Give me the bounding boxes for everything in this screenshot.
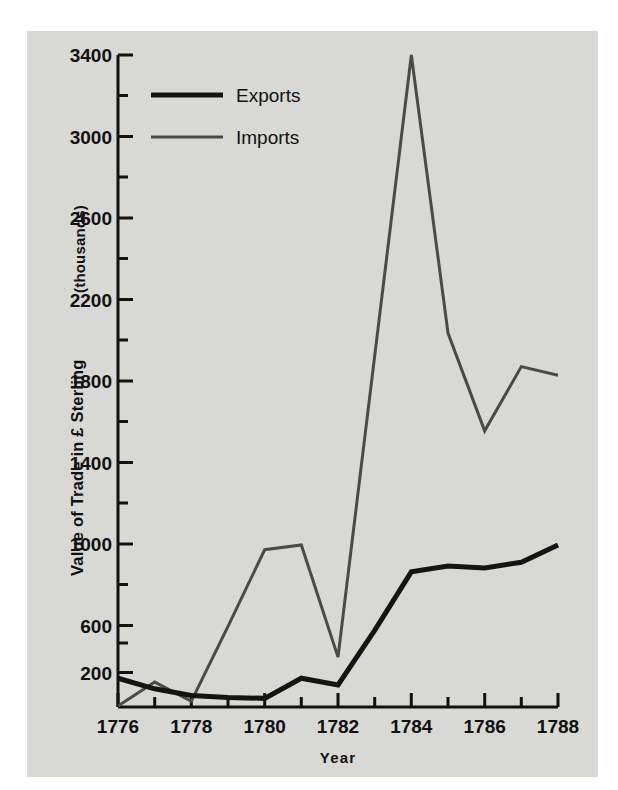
x-tick-label-1776: 1776 [97, 716, 139, 737]
y-tick-label-2200: 2200 [70, 290, 112, 311]
imports-line [118, 55, 558, 706]
x-tick-label-1782: 1782 [317, 716, 359, 737]
x-tick-label-1784: 1784 [390, 716, 433, 737]
y-tick-label-600: 600 [80, 616, 112, 637]
legend-item-imports: Imports [151, 127, 299, 148]
x-tick-label-1788: 1788 [537, 716, 579, 737]
exports-line [118, 545, 558, 698]
y-tick-label-200: 200 [80, 663, 112, 684]
trade-line-chart: Value of Trade in £ Sterling (thousands)… [27, 31, 598, 777]
y-tick-label-1400: 1400 [70, 453, 112, 474]
x-axis-title: Year [320, 749, 357, 766]
chart-figure: Value of Trade in £ Sterling (thousands)… [27, 31, 598, 777]
x-tick-label-1778: 1778 [170, 716, 212, 737]
y-tick-label-1000: 1000 [70, 534, 112, 555]
x-tick-label-1780: 1780 [244, 716, 286, 737]
x-axis-tick-labels: 1776 1778 1780 1782 1784 1786 1788 [97, 716, 579, 737]
x-tick-label-1786: 1786 [464, 716, 506, 737]
chart-legend: Exports Imports [151, 85, 300, 148]
legend-item-exports: Exports [151, 85, 300, 106]
y-tick-label-3000: 3000 [70, 127, 112, 148]
legend-label-imports: Imports [236, 127, 299, 148]
y-tick-label-1800: 1800 [70, 371, 112, 392]
y-tick-label-2600: 2600 [70, 208, 112, 229]
legend-label-exports: Exports [236, 85, 300, 106]
y-tick-label-3400: 3400 [70, 45, 112, 66]
